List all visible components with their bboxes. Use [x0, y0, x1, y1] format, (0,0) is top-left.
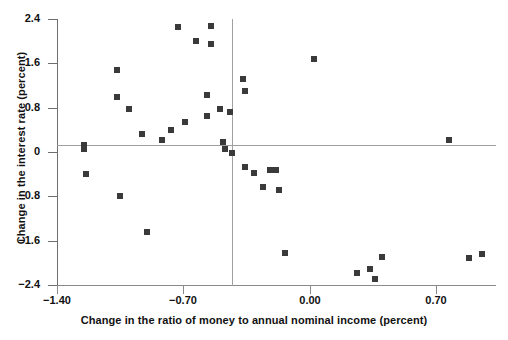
x-tick-mark [183, 286, 184, 294]
x-tick-label: 0.70 [406, 295, 466, 306]
plot-area [57, 19, 496, 285]
x-tick-label: −1.40 [27, 295, 87, 306]
x-tick-mark [57, 286, 58, 294]
data-point [273, 167, 279, 173]
data-point [311, 56, 317, 62]
data-point [182, 119, 188, 125]
data-point [282, 250, 288, 256]
data-point [117, 193, 123, 199]
horizontal-reference-line [57, 145, 496, 146]
y-tick-mark [48, 285, 57, 286]
data-point [242, 88, 248, 94]
data-point [354, 270, 360, 276]
data-point [479, 251, 485, 257]
data-point [126, 106, 132, 112]
data-point [446, 137, 452, 143]
y-tick-mark [48, 19, 57, 20]
data-point [208, 41, 214, 47]
data-point [242, 164, 248, 170]
data-point [217, 106, 223, 112]
y-tick-label: −2.4 [6, 279, 40, 290]
data-point [276, 187, 282, 193]
data-point [229, 150, 235, 156]
data-point [144, 229, 150, 235]
data-point [159, 137, 165, 143]
scatter-plot-figure: −2.4−1.6−0.800.81.62.4 −1.40−0.700.000.7… [0, 0, 508, 340]
data-point [372, 276, 378, 282]
data-point [260, 184, 266, 190]
data-point [193, 38, 199, 44]
x-tick-mark [310, 286, 311, 294]
data-point [240, 76, 246, 82]
data-point [208, 23, 214, 29]
y-tick-mark [48, 152, 57, 153]
data-point [168, 127, 174, 133]
data-point [114, 94, 120, 100]
y-tick-mark [48, 63, 57, 64]
data-point [204, 113, 210, 119]
data-point [204, 92, 210, 98]
y-axis-title: Change in the interest rate (percent) [15, 23, 27, 273]
data-point [114, 67, 120, 73]
y-tick-mark [48, 241, 57, 242]
y-tick-mark [48, 196, 57, 197]
data-point [227, 109, 233, 115]
y-axis-line [57, 19, 58, 286]
y-tick-mark [48, 108, 57, 109]
x-tick-mark [436, 286, 437, 294]
data-point [379, 254, 385, 260]
x-axis-line [57, 285, 496, 286]
data-point [251, 170, 257, 176]
data-point [83, 171, 89, 177]
data-point [367, 266, 373, 272]
x-tick-label: −0.70 [153, 295, 213, 306]
data-point [81, 146, 87, 152]
data-point [139, 131, 145, 137]
data-point [175, 24, 181, 30]
data-point [220, 139, 226, 145]
x-tick-label: 0.00 [280, 295, 340, 306]
data-point [222, 146, 228, 152]
x-axis-title: Change in the ratio of money to annual n… [0, 314, 508, 326]
data-point [466, 255, 472, 261]
